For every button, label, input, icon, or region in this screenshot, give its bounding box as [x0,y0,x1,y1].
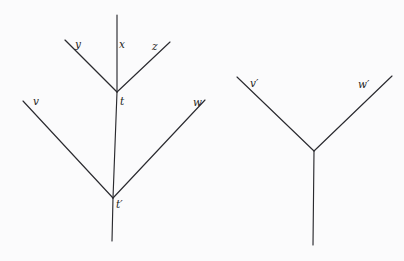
left-tree-group [23,15,205,241]
edge-t-tp-edge [113,92,117,198]
edge-v-edge [23,101,113,198]
right-tree-group [237,76,392,245]
tree-diagram-figure: yxztvwt′v′w′ [0,0,404,261]
edge-w-edge [113,100,205,198]
edge-y-edge [65,40,117,92]
vertex-label-w: w [193,97,202,108]
vertex-label-vp: v′ [250,78,258,89]
vertex-label-z: z [152,41,158,52]
vertex-label-tp: t′ [116,199,123,210]
edge-vp-edge [237,77,314,151]
vertex-label-v: v [33,96,39,107]
vertex-label-wp: w′ [358,79,369,90]
edge-tp-stem [112,198,113,241]
diagram-canvas [0,0,404,261]
edge-rp-stem [313,151,314,245]
edge-wp-edge [314,76,392,151]
vertex-label-t: t [120,96,124,107]
vertex-label-x: x [119,39,125,50]
vertex-label-y: y [75,39,81,50]
